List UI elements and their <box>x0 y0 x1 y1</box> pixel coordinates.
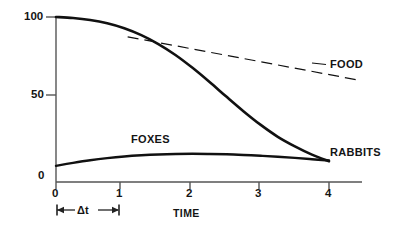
chart-canvas <box>0 0 393 240</box>
delta-t-arrowhead-right <box>112 207 119 213</box>
x-tick-label-4: 4 <box>325 188 331 200</box>
x-tick-label-2: 2 <box>186 188 192 200</box>
population-dynamics-chart: 100 50 0 0 1 2 3 4 FOOD RABBITS FOXES TI… <box>0 0 393 240</box>
series-label-rabbits: RABBITS <box>330 147 381 158</box>
series-label-foxes: FOXES <box>131 134 170 145</box>
x-tick-label-1: 1 <box>116 188 122 200</box>
x-tick-label-0: 0 <box>52 188 58 200</box>
series-line-foxes <box>56 154 329 166</box>
delta-t-arrowhead-left <box>57 207 64 213</box>
y-tick-label-0: 0 <box>38 170 44 182</box>
x-tick-label-3: 3 <box>255 188 261 200</box>
food-leader-line <box>312 63 326 65</box>
y-tick-label-100: 100 <box>24 11 43 23</box>
y-tick-label-50: 50 <box>31 89 44 101</box>
series-label-food: FOOD <box>330 59 363 70</box>
series-line-rabbits <box>56 17 329 161</box>
series-line-food <box>128 37 357 80</box>
x-axis-title: TIME <box>173 208 200 219</box>
delta-t-label: Δt <box>77 205 89 216</box>
